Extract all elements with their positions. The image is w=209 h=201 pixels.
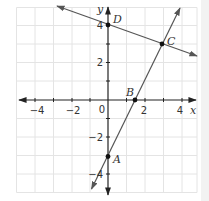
point-d [106, 23, 111, 28]
y-axis-label: y [96, 3, 104, 16]
coordinate-plane: −4 −2 0 2 4 4 2 −2 −4 x y A B C D [0, 0, 209, 201]
y-tick-label: −4 [88, 169, 103, 180]
y-tick-label: −2 [88, 132, 103, 143]
x-tick-label: −4 [30, 105, 45, 116]
x-tick-label: 4 [177, 105, 183, 116]
y-tick-label: 4 [97, 20, 103, 31]
x-tick-label: −2 [66, 105, 81, 116]
origin-label: 0 [99, 104, 105, 115]
point-b-label: B [125, 86, 134, 99]
point-a [106, 154, 111, 159]
y-tick-label: 2 [97, 57, 103, 68]
x-axis-label: x [190, 104, 197, 117]
point-d-label: D [112, 13, 122, 26]
point-c [160, 42, 165, 47]
point-c-label: C [167, 35, 176, 48]
x-tick-label: 2 [141, 105, 147, 116]
page-edge [201, 0, 209, 201]
point-a-label: A [112, 153, 121, 166]
